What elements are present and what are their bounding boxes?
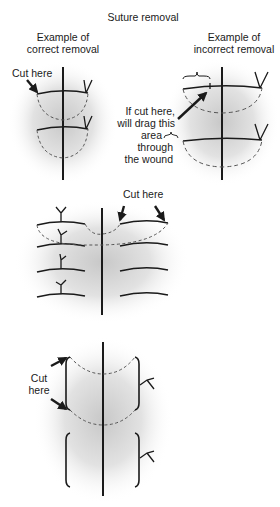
- cut-here-label-line1: Cut: [31, 372, 47, 384]
- incorrect-heading-line2: incorrect removal: [194, 43, 275, 55]
- annotation-line: area: [118, 129, 162, 141]
- annotation-line: If cut here,: [118, 105, 175, 117]
- correct-heading-line2: correct removal: [27, 43, 99, 55]
- cut-here-label: Cut here: [123, 188, 163, 200]
- cut-here-label-line2: here: [28, 384, 49, 396]
- incorrect-heading-line1: Example of: [208, 31, 261, 43]
- annotation-line: will drag this: [110, 117, 175, 129]
- annotation-line: through: [118, 141, 173, 153]
- cut-here-label: Cut here: [12, 67, 52, 79]
- correct-heading-line1: Example of: [37, 31, 90, 43]
- panel-mattress-suture: [33, 336, 173, 504]
- diagram-title: Suture removal: [107, 11, 178, 23]
- annotation-line: the wound: [110, 153, 173, 165]
- panel-incorrect-removal: [164, 58, 280, 186]
- panel-continuous-suture: [14, 200, 190, 324]
